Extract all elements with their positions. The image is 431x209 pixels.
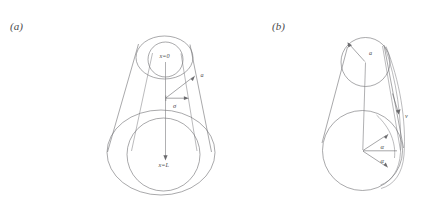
panel-a-cone-outline [108, 44, 212, 152]
label-radius-a-b: a [369, 49, 372, 56]
cone-edge-right-outer [190, 45, 212, 153]
panel-a-label: (a) [10, 20, 23, 33]
label-x-equals-L: x=L [158, 161, 170, 168]
label-x-equals-0: x=0 [159, 52, 171, 59]
panel-b: (b) a v α α [272, 20, 408, 191]
label-velocity-v: v [405, 112, 408, 119]
label-angle-alpha-upper: α [381, 143, 385, 150]
panel-a-radius-annotation [166, 76, 195, 98]
panel-b-radius-annotation [348, 42, 365, 61]
radius-arrow-line [166, 78, 193, 99]
label-radius-a: a [201, 71, 204, 78]
angle-ray-lower-arrowhead [384, 163, 388, 168]
panel-b-label: (b) [272, 20, 285, 33]
panel-a-offset-annotation [166, 96, 189, 102]
bottom-outer-circle [107, 110, 215, 195]
cone-edge-left-outer [108, 44, 139, 152]
cone-edge-left [322, 47, 348, 143]
label-offset-sigma: σ [173, 102, 177, 109]
panel-b-axis [363, 63, 366, 151]
cone-edge-left-inner [132, 53, 153, 151]
panel-a: (a) x=0 x=L a σ [10, 20, 215, 195]
bottom-inner-circle [127, 118, 200, 191]
sliver-outer-curve [381, 47, 405, 189]
radius-arrow-line-b [350, 45, 365, 62]
panel-a-inner-cone-outline [132, 53, 198, 151]
label-angle-alpha-lower: α [381, 157, 385, 164]
figure-svg: (a) x=0 x=L a σ [0, 0, 431, 209]
figure-root: (a) x=0 x=L a σ [0, 0, 431, 209]
